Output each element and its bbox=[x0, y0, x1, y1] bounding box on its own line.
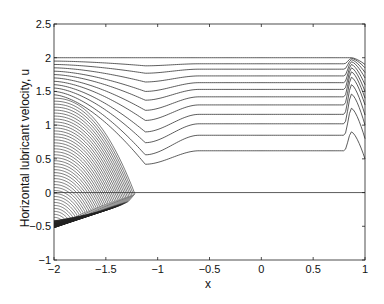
y-tick-label: 1 bbox=[45, 119, 51, 131]
y-tick-label: −0.5 bbox=[29, 220, 51, 232]
x-tick-label: −0.5 bbox=[199, 263, 221, 275]
y-tick-label: 0 bbox=[45, 187, 51, 199]
x-tick-label: −1.5 bbox=[95, 263, 117, 275]
y-axis-label: Horizontal lubricant velocity, u bbox=[18, 69, 32, 228]
x-tick-label: −1 bbox=[151, 263, 164, 275]
y-tick-label: 1.5 bbox=[36, 85, 51, 97]
y-tick-label: 2 bbox=[45, 52, 51, 64]
y-tick-label: 0.5 bbox=[36, 153, 51, 165]
x-tick-label: 1 bbox=[362, 263, 368, 275]
x-tick-label: 0.5 bbox=[306, 263, 321, 275]
y-tick-label: 2.5 bbox=[36, 18, 51, 30]
y-tick-label: −1 bbox=[38, 254, 51, 266]
x-tick-label: 0 bbox=[258, 263, 264, 275]
chart: −2−1.5−1−0.500.51 −1−0.500.511.522.5 x H… bbox=[0, 0, 384, 304]
plot-background bbox=[54, 24, 365, 260]
x-axis-label: x bbox=[205, 277, 211, 291]
